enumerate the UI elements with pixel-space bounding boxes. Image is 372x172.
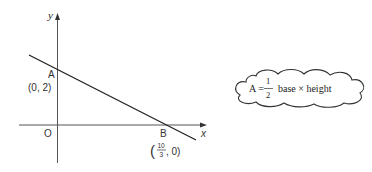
y-axis-arrow-icon xyxy=(55,13,60,20)
y-axis-label: y xyxy=(47,9,53,21)
x-axis-label: x xyxy=(200,128,207,139)
point-b-denominator: 3 xyxy=(160,151,164,158)
point-a-label: A xyxy=(48,69,55,80)
point-b-coords: ( 10 3 , 0) xyxy=(150,142,180,159)
line-ab xyxy=(29,55,196,140)
origin-label: O xyxy=(44,128,52,139)
diagram-canvas: y x O A (0, 2) B ( 10 3 , 0) A = 1 2 bas… xyxy=(0,0,372,172)
formula-rhs: base × height xyxy=(278,83,332,94)
x-axis-arrow-icon xyxy=(200,123,207,128)
point-b-rest: , 0) xyxy=(166,146,180,157)
formula-lhs: A = xyxy=(249,83,264,94)
point-b-label: B xyxy=(160,128,167,139)
point-a-coords: (0, 2) xyxy=(28,82,51,93)
formula-numerator: 1 xyxy=(266,76,270,86)
point-b-paren-open: ( xyxy=(150,142,155,159)
formula-cloud: A = 1 2 base × height xyxy=(236,70,364,108)
formula-denominator: 2 xyxy=(266,90,270,100)
point-b-numerator: 10 xyxy=(158,142,166,149)
